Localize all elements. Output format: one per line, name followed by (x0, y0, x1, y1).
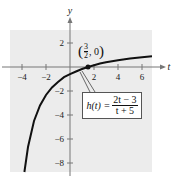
y-tick-label: −6 (54, 134, 64, 144)
y-axis-label: y (67, 5, 73, 16)
point-fraction: 3 2 (84, 43, 88, 60)
x-tick-label: −4 (17, 72, 27, 82)
x-axis-label: t (168, 61, 171, 72)
point-denominator: 2 (84, 52, 88, 60)
y-tick-label: −2 (54, 86, 64, 96)
equation-label: h(t) = 2t − 3 t + 5 (82, 92, 142, 119)
x-tick-label: 4 (116, 72, 121, 82)
y-tick-label: −4 (54, 110, 64, 120)
point-label: ( 3 2 , 0 ) (78, 43, 104, 60)
x-axis-arrow-icon (160, 65, 166, 70)
equation-denominator: t + 5 (116, 106, 134, 116)
x-intercept-point (86, 65, 91, 70)
point-y: , 0 (89, 46, 99, 57)
paren-close: ) (99, 44, 104, 59)
equation-lhs: h(t) = (86, 100, 110, 111)
y-axis-arrow-icon (68, 17, 73, 23)
y-tick-label: 2 (60, 38, 65, 48)
equation-fraction: 2t − 3 t + 5 (112, 95, 137, 116)
x-tick-label: 2 (92, 72, 97, 82)
y-tick-label: −8 (54, 158, 64, 168)
x-tick-label: 6 (140, 72, 145, 82)
paren-open: ( (78, 44, 83, 59)
x-tick-label: −2 (41, 72, 51, 82)
